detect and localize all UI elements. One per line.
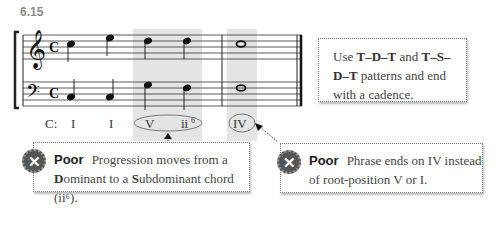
svg-text:V: V <box>145 116 155 131</box>
svg-text:6: 6 <box>191 116 195 125</box>
svg-text:C:: C: <box>45 116 57 131</box>
poor-label: Poor <box>309 153 339 168</box>
svg-text:ii: ii <box>181 116 189 131</box>
poor-callout-1: ✕ PoorProgression moves from a Dominant … <box>33 142 250 192</box>
svg-text:I: I <box>71 116 75 131</box>
bold-d: D <box>54 171 63 186</box>
treble-clef-icon: 𝄞 <box>26 28 46 70</box>
svg-text:I: I <box>109 116 113 131</box>
svg-text:IV: IV <box>233 116 247 131</box>
tip-box: Use T–D–T and T–S–D–T patterns and end w… <box>318 38 467 102</box>
svg-text:C: C <box>49 40 59 55</box>
callout-text: ominant to a <box>63 171 131 186</box>
tip-text: and <box>396 49 421 64</box>
x-circle-icon: ✕ <box>22 149 46 173</box>
tip-text: Use <box>333 49 356 64</box>
x-circle-icon: ✕ <box>277 150 301 174</box>
poor-label: Poor <box>54 152 84 167</box>
svg-text:C: C <box>49 86 59 101</box>
tip-bold-tdt: T–D–T <box>356 49 396 64</box>
poor-callout-2: ✕ PoorPhrase ends on IV instead of root-… <box>280 143 483 193</box>
bold-s: S <box>132 171 139 186</box>
callout-text: Progression moves from a <box>92 152 228 167</box>
bass-clef-icon: 𝄢 <box>26 81 40 106</box>
